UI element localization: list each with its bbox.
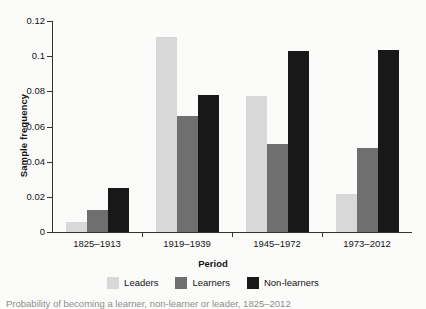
bar-group — [232, 21, 322, 232]
bar — [288, 51, 309, 232]
y-tick-label: 0.04 — [27, 157, 46, 167]
bar — [177, 116, 198, 232]
bar — [378, 50, 399, 233]
bar-group — [322, 21, 412, 232]
bar — [87, 210, 108, 233]
legend-label: Non-learners — [264, 278, 319, 288]
x-axis-title: Period — [0, 258, 426, 269]
bar — [246, 96, 267, 232]
y-tick-label: 0.06 — [27, 122, 46, 132]
legend-label: Leaders — [124, 278, 158, 288]
bar — [267, 144, 288, 232]
bar-group — [142, 21, 232, 232]
x-tick-mark — [232, 232, 233, 237]
y-tick-label: 0 — [40, 227, 45, 237]
bar — [108, 188, 129, 232]
bar — [336, 194, 357, 232]
legend-item: Non-learners — [247, 277, 319, 289]
x-tick-mark — [142, 232, 143, 237]
x-tick-label: 1973–2012 — [343, 238, 391, 249]
bar — [198, 95, 219, 232]
bar-group — [52, 21, 142, 232]
y-tick-label: 0.1 — [32, 51, 45, 61]
x-tick-mark — [322, 232, 323, 237]
legend-item: Learners — [175, 277, 230, 289]
y-tick-label: 0.12 — [27, 16, 46, 26]
y-tick-label: 0.02 — [27, 192, 46, 202]
x-tick-label: 1945–1972 — [253, 238, 301, 249]
x-tick-label: 1825–1913 — [73, 238, 121, 249]
plot-area: 00.020.040.060.080.10.12 — [52, 21, 412, 232]
legend-swatch-icon — [107, 277, 119, 289]
legend-item: Leaders — [107, 277, 158, 289]
x-tick-label: 1919–1939 — [163, 238, 211, 249]
legend-label: Learners — [192, 278, 230, 288]
bar — [357, 148, 378, 232]
figure-caption: Probability of becoming a learner, non-l… — [6, 298, 420, 309]
y-tick-mark — [47, 232, 52, 233]
chart-legend: LeadersLearnersNon-learners — [0, 277, 426, 289]
y-tick-label: 0.08 — [27, 87, 46, 97]
bar — [156, 37, 177, 232]
bar — [66, 222, 87, 232]
legend-swatch-icon — [175, 277, 187, 289]
legend-swatch-icon — [247, 277, 259, 289]
